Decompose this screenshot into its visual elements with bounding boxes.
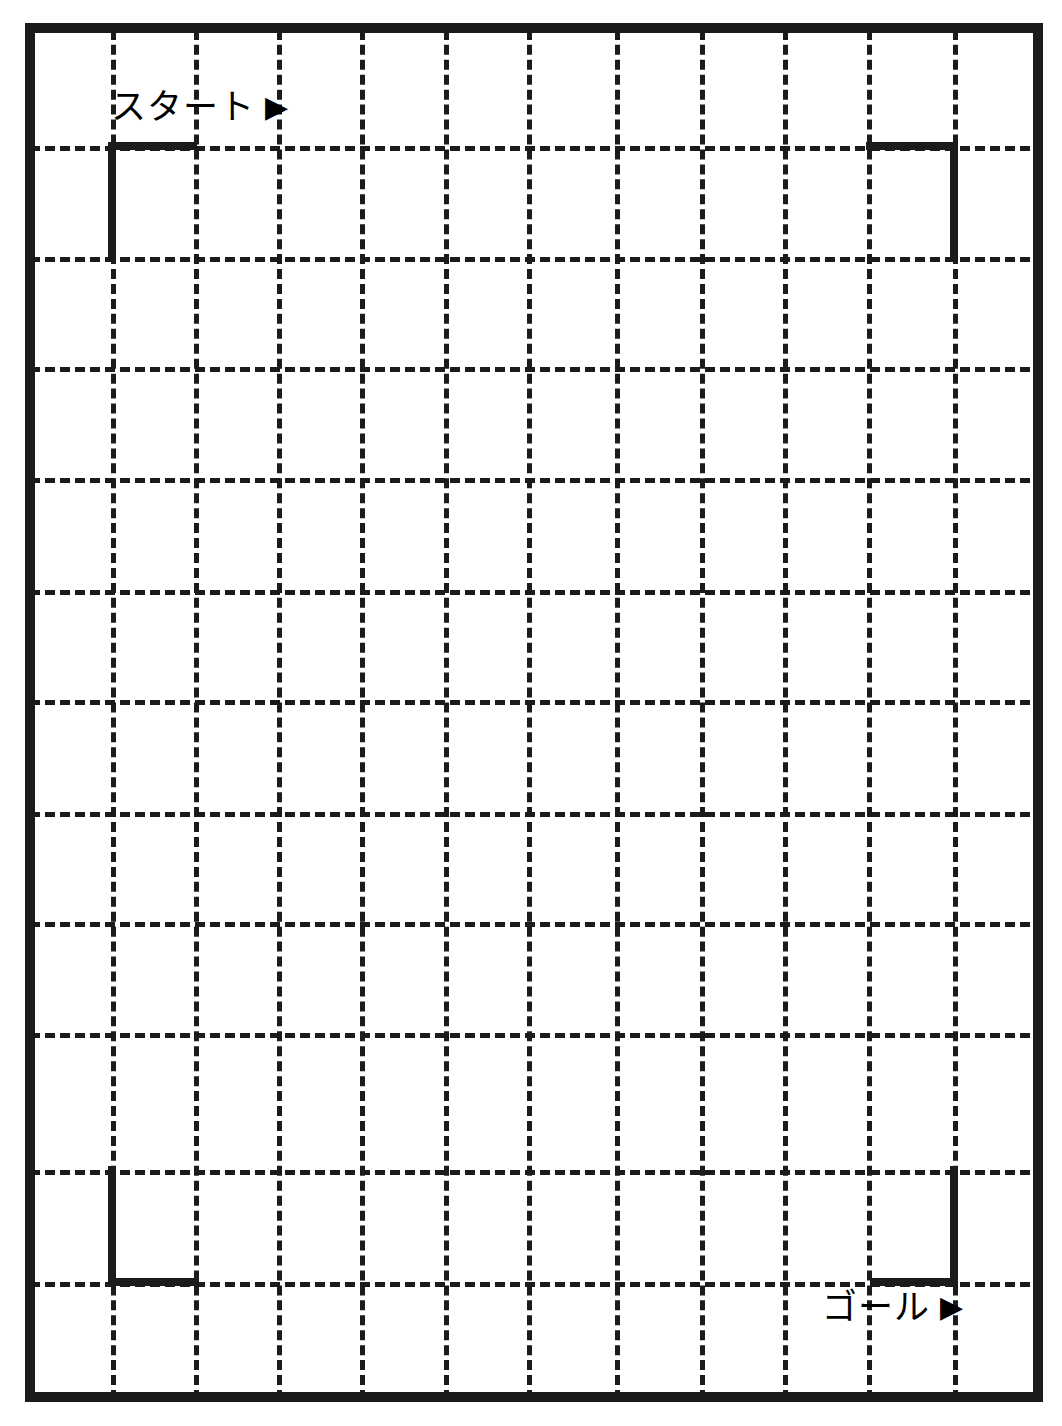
goal-label: ゴール▶ xyxy=(822,1290,964,1325)
grid-line-vertical-2 xyxy=(277,33,282,1392)
start-arrow-icon: ▶ xyxy=(265,92,289,122)
bottom-left-bracket-segment-vertical xyxy=(108,1166,116,1286)
top-right-bracket-segment-horizontal xyxy=(866,142,958,150)
grid-line-horizontal-5 xyxy=(35,700,1033,705)
grid-line-horizontal-8 xyxy=(35,1033,1033,1038)
grid-line-vertical-4 xyxy=(444,33,449,1392)
start-bracket-segment-horizontal xyxy=(108,142,197,150)
grid-line-vertical-3 xyxy=(360,33,365,1392)
grid-line-vertical-9 xyxy=(867,33,872,1392)
grid-line-vertical-8 xyxy=(783,33,788,1392)
start-label: スタート▶ xyxy=(111,90,289,125)
maze-worksheet-page: スタート▶ ゴール▶ xyxy=(0,0,1062,1426)
bottom-left-bracket-segment-horizontal xyxy=(108,1278,199,1286)
grid-line-horizontal-1 xyxy=(35,257,1033,262)
grid-line-horizontal-6 xyxy=(35,812,1033,817)
grid-line-horizontal-4 xyxy=(35,590,1033,595)
start-bracket-segment-vertical xyxy=(108,142,116,261)
grid-line-horizontal-7 xyxy=(35,922,1033,927)
grid-line-vertical-5 xyxy=(527,33,532,1392)
grid-line-horizontal-2 xyxy=(35,367,1033,372)
goal-bracket-segment-horizontal xyxy=(870,1278,958,1286)
grid-line-horizontal-9 xyxy=(35,1170,1033,1175)
grid-line-vertical-6 xyxy=(615,33,620,1392)
top-right-bracket-segment-vertical xyxy=(950,142,958,261)
grid-line-vertical-7 xyxy=(700,33,705,1392)
goal-bracket-segment-vertical xyxy=(950,1166,958,1286)
maze-grid xyxy=(35,33,1033,1392)
grid-line-horizontal-3 xyxy=(35,478,1033,483)
grid-line-vertical-1 xyxy=(194,33,199,1392)
goal-label-text: ゴール xyxy=(822,1287,930,1327)
goal-arrow-icon: ▶ xyxy=(940,1292,964,1322)
start-label-text: スタート xyxy=(111,87,255,127)
